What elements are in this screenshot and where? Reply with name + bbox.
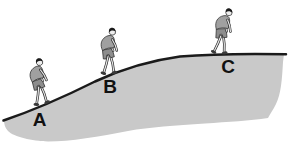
walker-at-c (209, 8, 234, 55)
position-label-a: A (33, 109, 47, 130)
position-label-c: C (221, 56, 235, 77)
walker-at-b (92, 27, 124, 77)
position-label-b: B (103, 76, 117, 97)
hill-diagram-canvas: A B C (0, 0, 293, 149)
hill-walk-diagram: A B C (0, 0, 293, 149)
walker-at-a (19, 57, 56, 108)
